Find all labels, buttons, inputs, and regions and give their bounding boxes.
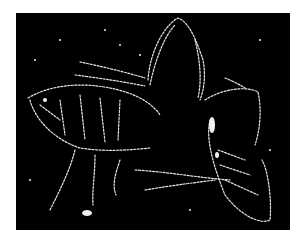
insect-edge-drawing [16, 13, 290, 230]
insect-image [16, 13, 290, 230]
